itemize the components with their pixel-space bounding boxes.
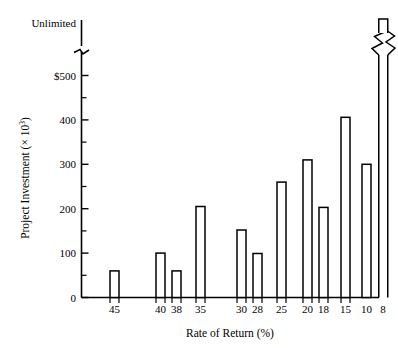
bar-28 [253,254,262,298]
y-axis-unlimited-label: Unlimited [31,17,76,29]
bar-18 [319,207,328,297]
x-tick-label-30: 30 [236,303,248,315]
y-tick-label-100: 100 [60,247,77,259]
bar-30 [237,230,246,298]
bar-38 [172,271,181,298]
y-axis-title-main: Project Investment (× 10 [19,124,32,238]
bar-chart-canvas: $500 400 300 200 100 0 Unlimited Project… [0,0,398,348]
x-tick-label-10: 10 [361,303,373,315]
bar-25 [277,182,286,297]
x-tick-label-15: 15 [340,303,352,315]
y-tick-label-400: 400 [60,114,77,126]
y-tick-label-300: 300 [60,158,77,170]
chart-figure: $500 400 300 200 100 0 Unlimited Project… [0,0,398,348]
bar-20 [303,160,312,298]
y-axis-title: Project Investment (× 103) [18,117,32,239]
bar-45 [110,271,119,298]
x-tick-label-25: 25 [276,303,288,315]
x-axis-title: Rate of Return (%) [186,327,274,340]
bar-35 [196,207,205,298]
bar-8-top-cap [379,19,388,33]
svg-text:Project Investment (× 103): Project Investment (× 103) [18,117,32,239]
x-tick-label-40: 40 [155,303,167,315]
x-tick-label-38: 38 [171,303,183,315]
x-tick-label-20: 20 [302,303,314,315]
x-tick-label-28: 28 [252,303,264,315]
x-tick-label-35: 35 [195,303,207,315]
y-tick-label-0: 0 [71,292,77,304]
y-tick-label-500: $500 [54,70,77,82]
bar-40 [156,253,165,297]
x-tick-label-8: 8 [380,303,386,315]
y-tick-label-200: 200 [60,203,77,215]
x-tick-label-45: 45 [109,303,121,315]
bar-15 [341,117,350,297]
bar-10 [362,164,371,297]
x-tick-label-18: 18 [318,303,330,315]
y-axis-title-tail: ) [19,117,32,121]
